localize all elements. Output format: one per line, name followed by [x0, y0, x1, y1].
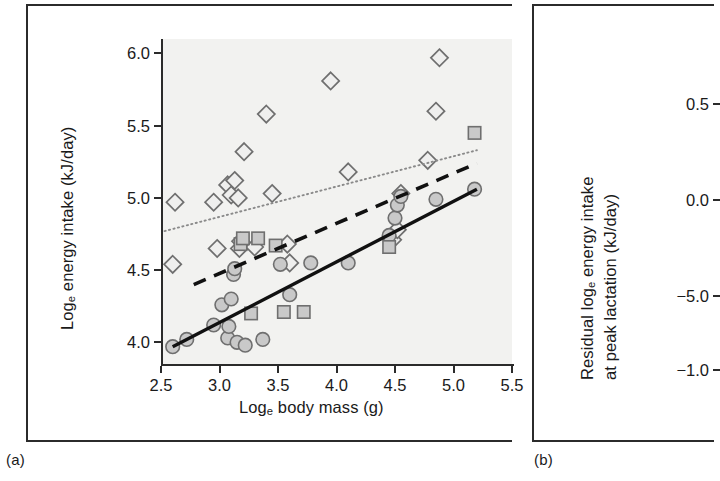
- panel-a-x-tickmark: [394, 366, 396, 373]
- panel-a-x-tickmark: [160, 366, 162, 373]
- data-point-square: [237, 232, 249, 244]
- data-point-square: [252, 232, 264, 244]
- panel-b-y-tick-label: 0.5: [686, 95, 709, 114]
- data-point-diamond: [166, 194, 183, 211]
- data-point-diamond: [264, 185, 281, 202]
- data-point-diamond: [205, 194, 222, 211]
- data-point-diamond: [340, 163, 357, 180]
- panel-a-x-tick-label: 2.5: [150, 376, 173, 395]
- data-point-square: [298, 306, 310, 318]
- panel-a-y-axis-title-sub: e: [65, 296, 77, 302]
- panel-b-y-axis-title-pre: Residual log: [578, 288, 596, 380]
- panel-a-y-tickmark: [154, 52, 161, 54]
- panel-b-y-tickmark: [713, 103, 720, 105]
- panel-a-x-tickmark: [219, 366, 221, 373]
- data-point-circle: [256, 333, 270, 347]
- panel-a-y-axis-title-pre: Log: [58, 302, 76, 330]
- panel-a-y-tick-label: 4.0: [127, 333, 150, 352]
- panel-a-caption: (a): [6, 451, 25, 468]
- data-point-diamond: [209, 240, 226, 257]
- panel-a-y-tick-label: 4.5: [127, 261, 150, 280]
- data-point-diamond: [431, 49, 448, 66]
- panel-a-x-tick-label: 3.5: [267, 376, 290, 395]
- data-point-circle: [166, 340, 180, 354]
- data-point-diamond: [427, 103, 444, 120]
- data-point-diamond: [258, 106, 275, 123]
- data-point-circle: [224, 292, 238, 306]
- fit-line-solid: [173, 189, 477, 346]
- panel-a-x-axis-title: Loge body mass (g): [239, 398, 384, 417]
- data-point-square: [468, 127, 480, 139]
- panel-a-y-axis-title-post: energy intake (kJ/day): [58, 127, 76, 296]
- data-point-diamond: [164, 256, 181, 273]
- panel-a-x-tick-label: 4.5: [384, 376, 407, 395]
- panel-b-y-tickmark: [713, 369, 720, 371]
- panel-a-y-tick-label: 5.0: [127, 188, 150, 207]
- data-point-square: [278, 306, 290, 318]
- data-point-circle: [388, 211, 402, 225]
- panel-a-y-tickmark: [154, 341, 161, 343]
- panel-a-x-tick-label: 5.0: [442, 376, 465, 395]
- panel-b-y-tick-label: −1.0: [676, 361, 709, 380]
- data-point-square: [383, 241, 395, 253]
- panel-b-y-axis-title-line1: Residual loge energy intake: [578, 177, 597, 380]
- panel-b-y-tickmark: [713, 199, 720, 201]
- data-point-circle: [274, 258, 288, 272]
- panel-a-x-tickmark: [453, 366, 455, 373]
- panel-a-y-axis-title: Loge energy intake (kJ/day): [58, 127, 77, 330]
- panel-a-x-tickmark: [277, 366, 279, 373]
- panel-a-x-axis-title-post: body mass (g): [273, 398, 384, 416]
- data-point-diamond: [235, 143, 252, 160]
- panel-a-x-tick-label: 3.0: [208, 376, 231, 395]
- panel-a-y-tick-label: 6.0: [127, 44, 150, 63]
- panel-b-y-axis-title-sub: e: [585, 282, 597, 288]
- panel-a-y-tickmark: [154, 197, 161, 199]
- panel-a-y-tickmark: [154, 269, 161, 271]
- panel-a-x-tick-label: 4.0: [325, 376, 348, 395]
- data-point-diamond: [322, 72, 339, 89]
- panel-b-caption: (b): [534, 451, 553, 468]
- data-point-circle: [429, 193, 443, 207]
- panel-a-y-tickmark: [154, 125, 161, 127]
- panel-a-y-tick-label: 5.5: [127, 116, 150, 135]
- data-point-circle: [304, 256, 318, 270]
- panel-a-x-axis-title-pre: Log: [239, 398, 267, 416]
- data-point-circle: [238, 338, 252, 352]
- panel-a-x-tick-label: 5.5: [501, 376, 524, 395]
- panel-a-x-tickmark: [336, 366, 338, 373]
- panel-a-data-layer: [161, 39, 513, 365]
- panel-b-y-axis-title-post: energy intake: [578, 177, 596, 282]
- panel-b-y-tick-label: 0.0: [686, 191, 709, 210]
- panel-b-y-tickmark: [713, 295, 720, 297]
- panel-b-y-tick-label: −5.0: [676, 287, 709, 306]
- panel-a-x-tickmark: [511, 366, 513, 373]
- data-point-diamond: [419, 152, 436, 169]
- panel-b-y-axis-title-line2: at peak lactation (kJ/day): [601, 194, 620, 380]
